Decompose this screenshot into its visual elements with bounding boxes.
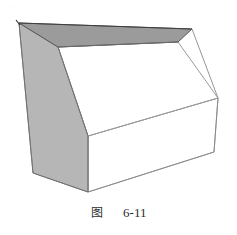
solid-figure-drawing bbox=[0, 0, 237, 235]
figure-caption-label: 图 bbox=[91, 206, 103, 220]
figure-container: ... 图 6-11 bbox=[0, 0, 237, 235]
figure-caption: 图 6-11 bbox=[0, 204, 237, 222]
figure-caption-number: 6-11 bbox=[123, 205, 146, 220]
